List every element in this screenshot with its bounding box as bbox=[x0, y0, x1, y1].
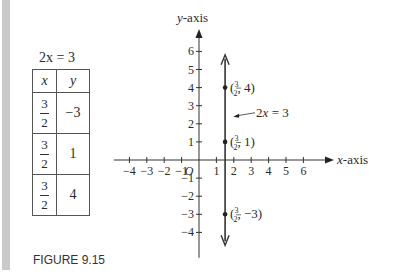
point-label: (32, 1) bbox=[230, 134, 255, 152]
x-tick-label: 6 bbox=[300, 164, 306, 178]
annotation-label: 2x = 3 bbox=[256, 105, 289, 120]
x-tick-label: −4 bbox=[123, 164, 136, 178]
x-tick-label: 2 bbox=[231, 164, 237, 178]
point-label: (32, −3) bbox=[230, 206, 262, 224]
y-tick-label: 3 bbox=[188, 99, 194, 113]
annotation-arrow-line bbox=[237, 113, 255, 116]
data-point bbox=[223, 85, 228, 90]
y-tick-label: 1 bbox=[188, 135, 194, 149]
y-tick-label: −2 bbox=[181, 189, 194, 203]
y-tick-label: 2 bbox=[188, 117, 194, 131]
data-point bbox=[223, 140, 228, 145]
x-tick-label: 1 bbox=[213, 164, 219, 178]
y-tick-label: 5 bbox=[188, 63, 194, 77]
y-tick-label: 6 bbox=[188, 44, 194, 58]
x-axis-label: x-axis bbox=[336, 152, 368, 167]
annotation-arrowhead bbox=[233, 114, 239, 118]
x-tick-label: 4 bbox=[266, 164, 272, 178]
y-tick-label: 4 bbox=[188, 81, 194, 95]
y-axis-label: y-axis bbox=[175, 10, 208, 25]
origin-label: O bbox=[185, 164, 194, 178]
x-axis-arrowhead bbox=[325, 157, 334, 164]
data-point bbox=[223, 212, 228, 217]
y-tick-label: −4 bbox=[181, 225, 194, 239]
x-tick-label: −2 bbox=[158, 164, 171, 178]
x-tick-label: −3 bbox=[140, 164, 153, 178]
x-tick-label: 5 bbox=[283, 164, 289, 178]
x-tick-label: 3 bbox=[248, 164, 254, 178]
y-tick-label: −3 bbox=[181, 207, 194, 221]
point-label: (32, 4) bbox=[230, 80, 255, 98]
y-axis-arrowhead bbox=[196, 29, 203, 38]
coordinate-plane: x-axisy-axis−4−3−2−1123456−4−3−2−1123456… bbox=[0, 0, 412, 276]
